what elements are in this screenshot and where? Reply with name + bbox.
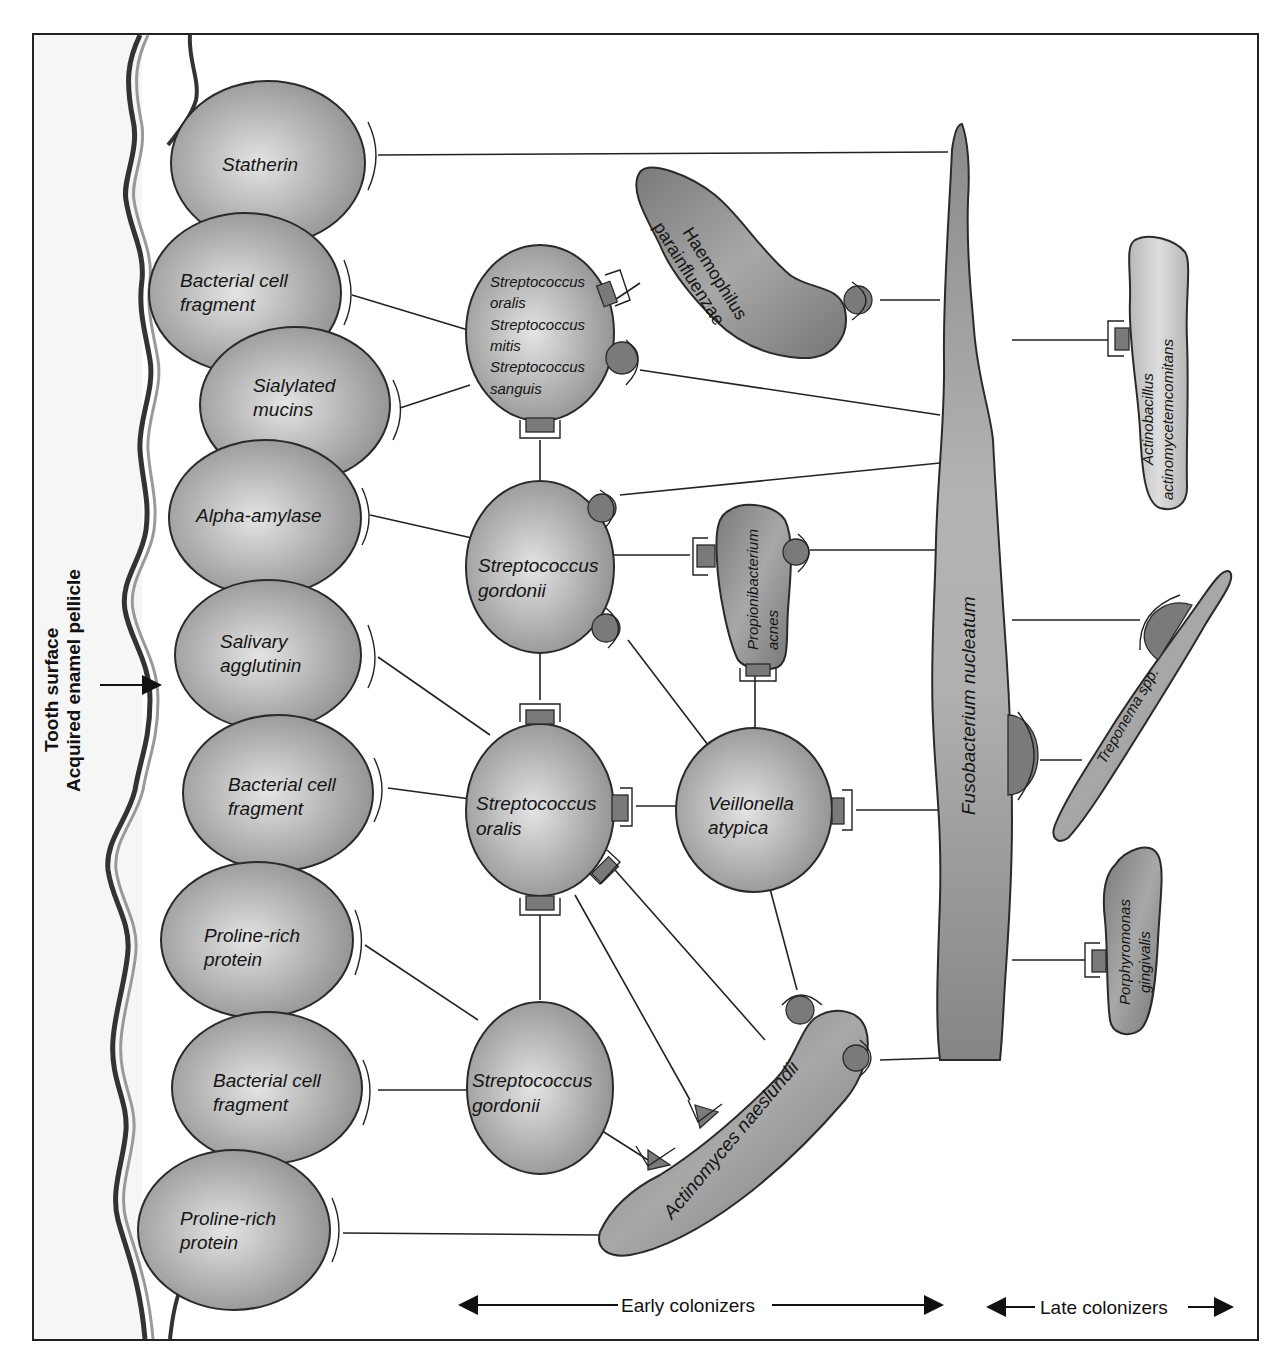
svg-text:Proline-rich: Proline-rich <box>180 1208 276 1229</box>
svg-text:Veillonella: Veillonella <box>708 793 794 814</box>
svg-text:Streptococcus: Streptococcus <box>478 555 599 576</box>
svg-text:oralis: oralis <box>490 294 526 311</box>
svg-text:Salivary: Salivary <box>220 631 289 652</box>
svg-text:mitis: mitis <box>490 337 521 354</box>
tooth-surface-label: Tooth surface <box>41 628 62 752</box>
svg-text:fragment: fragment <box>180 294 256 315</box>
svg-text:fragment: fragment <box>228 798 304 819</box>
svg-text:Streptococcus: Streptococcus <box>490 273 586 290</box>
svg-text:Propionibacterium: Propionibacterium <box>744 529 761 650</box>
svg-text:Early colonizers: Early colonizers <box>621 1295 755 1316</box>
svg-text:Actinobacillus: Actinobacillus <box>1139 373 1156 466</box>
pellicle-label: Acquired enamel pellicle <box>63 569 84 792</box>
svg-text:Acquired enamel pellicle: Acquired enamel pellicle <box>63 569 84 792</box>
svg-text:Porphyromonas: Porphyromonas <box>1116 899 1133 1005</box>
streptococcus-gordonii-lower: Streptococcus gordonii <box>467 1002 613 1174</box>
svg-text:gordonii: gordonii <box>472 1095 540 1116</box>
svg-text:protein: protein <box>179 1232 238 1253</box>
svg-text:Sialylated: Sialylated <box>253 375 337 396</box>
svg-text:Streptococcus: Streptococcus <box>490 358 586 375</box>
svg-text:sanguis: sanguis <box>490 380 542 397</box>
svg-text:Fusobacterium nucleatum: Fusobacterium nucleatum <box>958 596 979 815</box>
streptococcus-gordonii-upper: Streptococcus gordonii <box>466 481 620 653</box>
svg-text:atypica: atypica <box>708 817 768 838</box>
svg-text:Late colonizers: Late colonizers <box>1040 1297 1168 1318</box>
svg-text:acnes: acnes <box>764 609 781 650</box>
svg-text:Proline-rich: Proline-rich <box>204 925 300 946</box>
svg-text:Streptococcus: Streptococcus <box>476 793 597 814</box>
svg-text:gingivalis: gingivalis <box>1136 931 1153 993</box>
svg-text:Bacterial cell: Bacterial cell <box>180 270 288 291</box>
svg-text:Tooth surface: Tooth surface <box>41 628 62 752</box>
svg-text:Statherin: Statherin <box>222 154 298 175</box>
svg-text:fragment: fragment <box>213 1094 289 1115</box>
svg-text:gordonii: gordonii <box>478 580 546 601</box>
svg-text:protein: protein <box>203 949 262 970</box>
oral-biofilm-diagram: Tooth surface Acquired enamel pellicle <box>0 0 1270 1357</box>
svg-text:Bacterial cell: Bacterial cell <box>228 774 336 795</box>
svg-text:Alpha-amylase: Alpha-amylase <box>195 505 322 526</box>
svg-text:agglutinin: agglutinin <box>220 655 301 676</box>
svg-text:Bacterial cell: Bacterial cell <box>213 1070 321 1091</box>
svg-text:mucins: mucins <box>253 399 314 420</box>
svg-text:Streptococcus: Streptococcus <box>490 316 586 333</box>
svg-text:Streptococcus: Streptococcus <box>472 1070 593 1091</box>
svg-text:oralis: oralis <box>476 818 522 839</box>
svg-text:actinomycetemcomitans: actinomycetemcomitans <box>1159 339 1176 500</box>
